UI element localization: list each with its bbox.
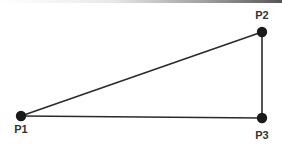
point-p3 <box>257 113 267 123</box>
edge-p3-p1 <box>21 116 262 118</box>
edge-p1-p2 <box>21 32 262 116</box>
point-p2 <box>257 27 267 37</box>
triangle-diagram: P1 P2 P3 <box>0 0 282 144</box>
label-p3: P3 <box>255 129 268 141</box>
point-p1 <box>16 111 26 121</box>
label-p2: P2 <box>255 9 268 21</box>
label-p1: P1 <box>14 123 27 135</box>
diagram-canvas: P1 P2 P3 <box>0 0 282 144</box>
